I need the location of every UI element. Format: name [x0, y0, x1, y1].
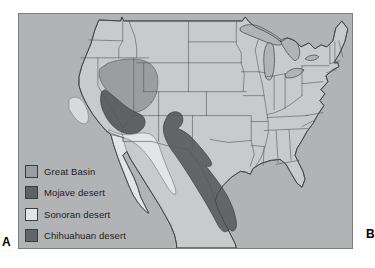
legend-item-chihuahuan-desert: Chihuahuan desert [25, 229, 126, 243]
legend-swatch-mojave-desert [25, 186, 38, 199]
legend-item-mojave-desert: Mojave desert [25, 186, 105, 200]
legend-item-sonoran-desert: Sonoran desert [25, 207, 110, 221]
legend-label-mojave-desert: Mojave desert [44, 187, 105, 198]
legend-label-great-basin: Great Basin [44, 166, 95, 177]
lake-michigan [264, 43, 275, 80]
legend-swatch-sonoran-desert [25, 208, 38, 221]
legend-item-great-basin: Great Basin [25, 164, 95, 178]
legend-swatch-chihuahuan-desert [25, 229, 38, 242]
legend-label-sonoran-desert: Sonoran desert [44, 209, 110, 220]
legend-swatch-great-basin [25, 165, 38, 178]
panel-label-b: B [366, 228, 375, 240]
panel-label-a: A [2, 236, 11, 248]
legend-label-chihuahuan-desert: Chihuahuan desert [44, 230, 126, 241]
